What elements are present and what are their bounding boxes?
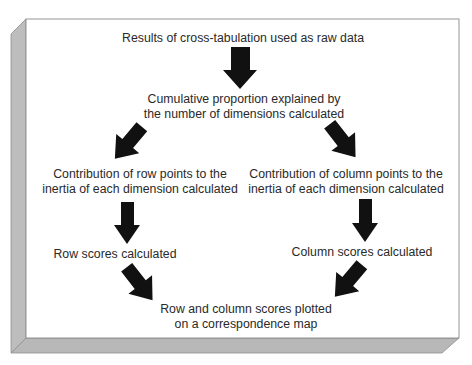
node-text-line: on a correspondence map [160,317,332,332]
node-text-line: Contribution of column points to the [248,167,444,182]
node-text-line: Contribution of row points to the [42,167,238,182]
node-column-scores: Column scores calculated [292,245,433,260]
frame-left-bevel [11,19,26,353]
node-text-line: Row and column scores plotted [160,302,332,317]
node-cumulative-proportion: Cumulative proportion explained by the n… [144,92,344,121]
node-text-line: Column scores calculated [292,245,433,260]
node-correspondence-map: Row and column scores plotted on a corre… [160,302,332,331]
node-text-line: Results of cross-tabulation used as raw … [122,31,364,46]
node-text-line: inertia of each dimension calculated [248,182,444,197]
node-row-scores: Row scores calculated [53,247,176,262]
node-raw-data: Results of cross-tabulation used as raw … [122,31,364,46]
node-column-contribution: Contribution of column points to the ine… [248,167,444,196]
node-text-line: inertia of each dimension calculated [42,182,238,197]
node-row-contribution: Contribution of row points to the inerti… [42,167,238,196]
node-text-line: the number of dimensions calculated [144,107,344,122]
frame-bottom-bevel [11,338,459,353]
node-text-line: Row scores calculated [53,247,176,262]
node-text-line: Cumulative proportion explained by [144,92,344,107]
